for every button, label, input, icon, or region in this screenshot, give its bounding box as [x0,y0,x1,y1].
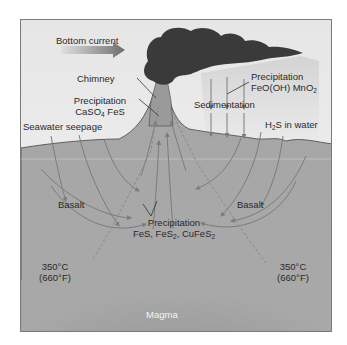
label-magma: Magma [146,309,178,320]
temp-left-fahrenheit: (660°F) [30,272,80,283]
precip-chimney-minerals: CaSO4 FeS [60,106,140,117]
label-temp-right: 350°C (660°F) [268,261,318,283]
label-basalt-left: Basalt [58,199,84,210]
label-precip-deep: Precipitation FeS, FeS2, CuFeS2 [119,217,229,239]
label-bottom-current: Bottom current [56,35,118,46]
precip-deep-title: Precipitation [119,217,229,228]
label-basalt-right: Basalt [237,199,263,210]
label-precip-plume: Precipitation FeO(OH) MnO2 [251,71,317,93]
label-h2s: H2S in water [265,119,318,130]
label-seawater-seepage: Seawater seepage [23,121,102,132]
label-sedimentation: Sedimentation [194,99,255,110]
diagram-canvas [21,20,332,332]
label-precip-chimney: Precipitation CaSO4 FeS [60,95,140,117]
precip-deep-minerals: FeS, FeS2, CuFeS2 [119,228,229,239]
precip-plume-minerals: FeO(OH) MnO2 [251,82,317,93]
label-chimney: Chimney [77,73,115,84]
diagram-frame: Bottom current Chimney Precipitation CaS… [20,19,332,332]
temp-left-celsius: 350°C [30,261,80,272]
label-temp-left: 350°C (660°F) [30,261,80,283]
precip-chimney-title: Precipitation [60,95,140,106]
precip-plume-title: Precipitation [251,71,317,82]
temp-right-fahrenheit: (660°F) [268,272,318,283]
temp-right-celsius: 350°C [268,261,318,272]
